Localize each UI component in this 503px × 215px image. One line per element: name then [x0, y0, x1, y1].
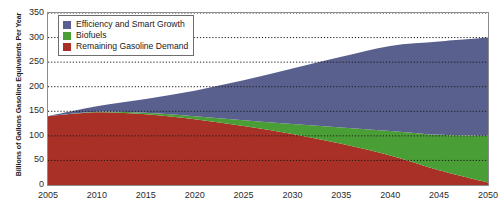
x-axis-tick-labels: 2005201020152020202520302035204020452050 — [47, 190, 489, 206]
legend-swatch-icon — [63, 43, 71, 51]
x-tick-label: 2015 — [126, 190, 166, 200]
legend-item-label: Biofuels — [76, 30, 107, 41]
x-tick-label: 2025 — [224, 190, 264, 200]
x-tick-label: 2040 — [370, 190, 410, 200]
x-tick-label: 2020 — [175, 190, 215, 200]
y-tick-label: 0 — [18, 180, 44, 189]
legend-item[interactable]: Remaining Gasoline Demand — [63, 41, 188, 52]
x-tick-label: 2045 — [419, 190, 459, 200]
y-tick-label: 50 — [18, 155, 44, 164]
legend-swatch-icon — [63, 21, 71, 29]
y-tick-label: 350 — [18, 8, 44, 17]
y-tick-label: 300 — [18, 33, 44, 42]
y-axis-tick-labels: 050100150200250300350 — [14, 0, 44, 215]
x-tick-label: 2005 — [28, 190, 68, 200]
y-tick-label: 200 — [18, 82, 44, 91]
x-tick-label: 2035 — [321, 190, 361, 200]
legend-item-label: Remaining Gasoline Demand — [76, 41, 188, 52]
legend-swatch-icon — [63, 32, 71, 40]
legend-item[interactable]: Biofuels — [63, 30, 188, 41]
x-tick-label: 2050 — [468, 190, 503, 200]
y-tick-label: 250 — [18, 57, 44, 66]
x-tick-label: 2010 — [77, 190, 117, 200]
y-tick-label: 100 — [18, 131, 44, 140]
legend-item-label: Efficiency and Smart Growth — [76, 19, 185, 30]
y-tick-label: 150 — [18, 106, 44, 115]
legend-item[interactable]: Efficiency and Smart Growth — [63, 19, 188, 30]
x-tick-label: 2030 — [272, 190, 312, 200]
chart-legend: Efficiency and Smart GrowthBiofuelsRemai… — [58, 15, 194, 56]
